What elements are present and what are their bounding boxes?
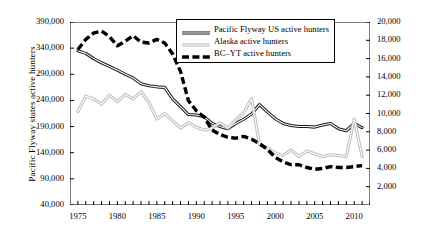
x-axis-tick-label: 2010 — [334, 211, 374, 221]
y-axis-left-tick-label: 240,000 — [18, 94, 64, 104]
y-axis-right-tick-label: 10,000 — [377, 108, 423, 118]
legend-item-label: Alaska active hunters — [214, 36, 288, 47]
y-axis-left-tick-label: 290,000 — [18, 68, 64, 78]
x-axis-tick-label: 1975 — [58, 211, 98, 221]
y-axis-right-tick-label: 18,000 — [377, 34, 423, 44]
y-axis-right-tick-label: 6,000 — [377, 144, 423, 154]
legend-swatch-icon — [181, 48, 211, 59]
chart-figure: Pacific Flyway states active hunters Ala… — [0, 0, 426, 243]
legend-item-label: Pacific Flyway US active hunters — [214, 24, 329, 35]
y-axis-right-tick-label: 16,000 — [377, 53, 423, 63]
series-line-2 — [78, 92, 362, 157]
y-axis-right-tick-label: 14,000 — [377, 71, 423, 81]
y-axis-left-tick-label: 340,000 — [18, 42, 64, 52]
chart-legend: Pacific Flyway US active huntersAlaska a… — [176, 19, 335, 63]
x-axis-tick-label: 1995 — [216, 211, 256, 221]
x-axis-tick-label: 1990 — [176, 211, 216, 221]
legend-swatch-icon — [181, 24, 211, 35]
legend-item-label: BC–YT active hunters — [214, 48, 291, 59]
y-axis-right-tick-label: 4,000 — [377, 162, 423, 172]
y-axis-left-tick-label: 90,000 — [18, 173, 64, 183]
y-axis-right-tick-label: 12,000 — [377, 89, 423, 99]
y-axis-left-tick-label: 140,000 — [18, 147, 64, 157]
y-axis-left-tick-label: 40,000 — [18, 199, 64, 209]
y-axis-right-tick-label: 2,000 — [377, 181, 423, 191]
x-axis-tick-label: 2005 — [295, 211, 335, 221]
y-axis-right-tick-label: 20,000 — [377, 16, 423, 26]
legend-item: BC–YT active hunters — [181, 47, 329, 59]
legend-item: Pacific Flyway US active hunters — [181, 23, 329, 35]
x-axis-tick-label: 1980 — [97, 211, 137, 221]
y-axis-right-tick-label: 8,000 — [377, 126, 423, 136]
legend-swatch-icon — [181, 36, 211, 47]
x-axis-tick-label: 2000 — [255, 211, 295, 221]
y-axis-left-tick-label: 190,000 — [18, 121, 64, 131]
legend-item: Alaska active hunters — [181, 35, 329, 47]
x-axis-tick-label: 1985 — [137, 211, 177, 221]
y-axis-left-tick-label: 390,000 — [18, 16, 64, 26]
